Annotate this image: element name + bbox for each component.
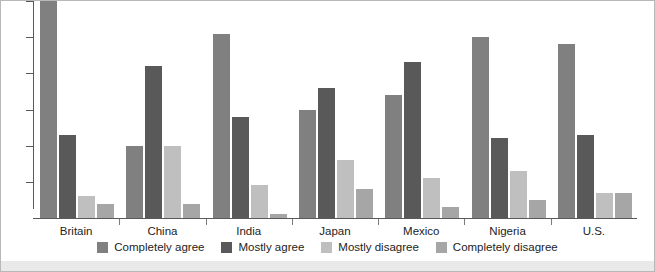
bar: [299, 110, 316, 219]
chart-legend: Completely agreeMostly agreeMostly disag…: [1, 241, 654, 253]
bar: [385, 95, 402, 218]
y-axis-tick: [26, 1, 33, 2]
bar: [59, 135, 76, 218]
y-axis-tick: [26, 37, 33, 38]
bar: [472, 37, 489, 218]
bar: [510, 171, 527, 218]
y-axis-tick: [26, 110, 33, 111]
bar: [40, 1, 57, 218]
bottom-strip: [1, 261, 654, 271]
bar: [232, 117, 249, 218]
bar-groups: [34, 0, 637, 219]
legend-label: Mostly disagree: [338, 241, 419, 253]
legend-label: Mostly agree: [238, 241, 304, 253]
x-axis-tick: [206, 219, 207, 225]
category-label: Britain: [60, 225, 93, 237]
chart-page: BritainChinaIndiaJapanMexicoNigeriaU.S. …: [0, 0, 655, 272]
x-axis-tick: [464, 219, 465, 225]
bar: [318, 88, 335, 218]
bar: [442, 207, 459, 218]
bar: [423, 178, 440, 218]
bar: [270, 214, 287, 218]
legend-label: Completely agree: [114, 241, 204, 253]
category-label: Japan: [319, 225, 350, 237]
category-label: Mexico: [403, 225, 439, 237]
bar: [615, 193, 632, 218]
bar: [164, 146, 181, 218]
bar-group: [552, 0, 638, 218]
legend-label: Completely disagree: [453, 241, 558, 253]
legend-swatch-icon: [321, 242, 332, 253]
plot-area: BritainChinaIndiaJapanMexicoNigeriaU.S.: [33, 0, 637, 219]
x-axis-tick: [119, 219, 120, 225]
bar: [213, 34, 230, 218]
bar: [596, 193, 613, 218]
bar: [126, 146, 143, 218]
x-axis-tick: [551, 219, 552, 225]
x-axis-tick: [292, 219, 293, 225]
bar: [529, 200, 546, 218]
bar: [577, 135, 594, 218]
category-label: China: [147, 225, 177, 237]
legend-swatch-icon: [221, 242, 232, 253]
bar-group: [293, 0, 379, 218]
bar-group: [120, 0, 206, 218]
legend-swatch-icon: [436, 242, 447, 253]
bar: [558, 44, 575, 218]
bar: [78, 196, 95, 218]
bar-group: [207, 0, 293, 218]
bar: [491, 138, 508, 218]
category-label: India: [236, 225, 261, 237]
bar: [145, 66, 162, 218]
bar-group: [379, 0, 465, 218]
legend-item[interactable]: Completely agree: [97, 241, 204, 253]
bar: [356, 189, 373, 218]
legend-item[interactable]: Mostly agree: [221, 241, 304, 253]
bar-group: [465, 0, 551, 218]
bar: [183, 204, 200, 218]
bar: [337, 160, 354, 218]
category-label: Nigeria: [489, 225, 525, 237]
legend-swatch-icon: [97, 242, 108, 253]
legend-item[interactable]: Mostly disagree: [321, 241, 419, 253]
y-axis-tick: [26, 73, 33, 74]
legend-item[interactable]: Completely disagree: [436, 241, 558, 253]
x-axis-tick: [378, 219, 379, 225]
y-axis-tick: [26, 182, 33, 183]
y-axis-tick: [26, 146, 33, 147]
bar: [97, 204, 114, 218]
category-label: U.S.: [583, 225, 605, 237]
bar-group: [34, 0, 120, 218]
bar: [251, 185, 268, 218]
bar: [404, 62, 421, 218]
